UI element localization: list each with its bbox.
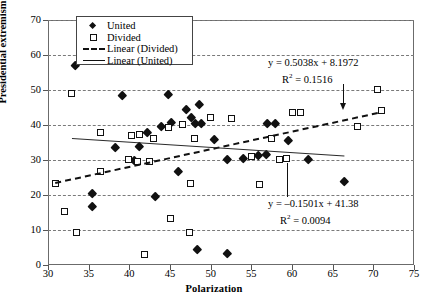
open-square-icon [81, 32, 107, 43]
dashed-line-icon [81, 43, 107, 54]
y-tick-mark-20 [43, 195, 48, 196]
divided-arrow-shaft [343, 84, 344, 104]
united-r2: R2 = 0.0094 [268, 211, 359, 227]
x-axis-title: Polarization [0, 283, 428, 294]
legend: United Divided Linear (Divided) Linear (… [76, 16, 193, 65]
y-tick-label-10: 10 [15, 225, 41, 235]
x-tick-label-75: 75 [402, 268, 426, 279]
legend-label-linear-divided: Linear (Divided) [107, 43, 178, 54]
y-tick-mark-60 [43, 55, 48, 56]
legend-item-linear-united: Linear (United) [81, 55, 192, 67]
x-tick-label-45: 45 [158, 268, 182, 279]
divided-arrow-head [340, 103, 346, 110]
y-tick-mark-30 [43, 160, 48, 161]
legend-label-united: United [107, 20, 136, 31]
x-tick-label-40: 40 [117, 268, 141, 279]
united-equation-text: y = –0.1501x + 41.38 [268, 198, 359, 209]
y-tick-mark-70 [43, 20, 48, 21]
legend-item-linear-divided: Linear (Divided) [81, 43, 192, 55]
united-equation-annotation: y = –0.1501x + 41.38 R2 = 0.0094 [268, 198, 359, 227]
legend-label-linear-united: Linear (United) [107, 55, 173, 66]
y-tick-label-30: 30 [15, 155, 41, 165]
y-tick-mark-40 [43, 125, 48, 126]
x-tick-label-55: 55 [239, 268, 263, 279]
y-tick-label-20: 20 [15, 190, 41, 200]
y-tick-label-70: 70 [15, 15, 41, 25]
divided-equation-text: y = 0.5038x + 8.1972 [268, 57, 359, 68]
scatter-chart: 010203040506070 30354045505560657075 Pre… [0, 0, 428, 304]
x-tick-label-60: 60 [280, 268, 304, 279]
divided-r2: R2 = 0.1516 [268, 70, 359, 86]
legend-item-united: United [81, 20, 192, 32]
legend-label-divided: Divided [107, 32, 141, 43]
y-tick-mark-10 [43, 230, 48, 231]
united-arrow-shaft [287, 163, 288, 197]
x-tick-label-50: 50 [199, 268, 223, 279]
y-tick-label-40: 40 [15, 120, 41, 130]
x-tick-label-35: 35 [77, 268, 101, 279]
y-axis-title: Presidential extremism [0, 0, 8, 152]
x-tick-label-30: 30 [36, 268, 60, 279]
y-tick-label-50: 50 [15, 85, 41, 95]
filled-diamond-icon [81, 20, 107, 31]
divided-equation-annotation: y = 0.5038x + 8.1972 R2 = 0.1516 [268, 57, 359, 86]
legend-item-divided: Divided [81, 32, 192, 44]
y-tick-label-60: 60 [15, 50, 41, 60]
y-tick-mark-50 [43, 90, 48, 91]
x-tick-label-70: 70 [361, 268, 385, 279]
solid-line-icon [81, 55, 107, 66]
x-tick-label-65: 65 [321, 268, 345, 279]
gridline-y-20 [48, 195, 414, 196]
gridline-y-10 [48, 230, 414, 231]
gridline-y-50 [48, 90, 414, 91]
